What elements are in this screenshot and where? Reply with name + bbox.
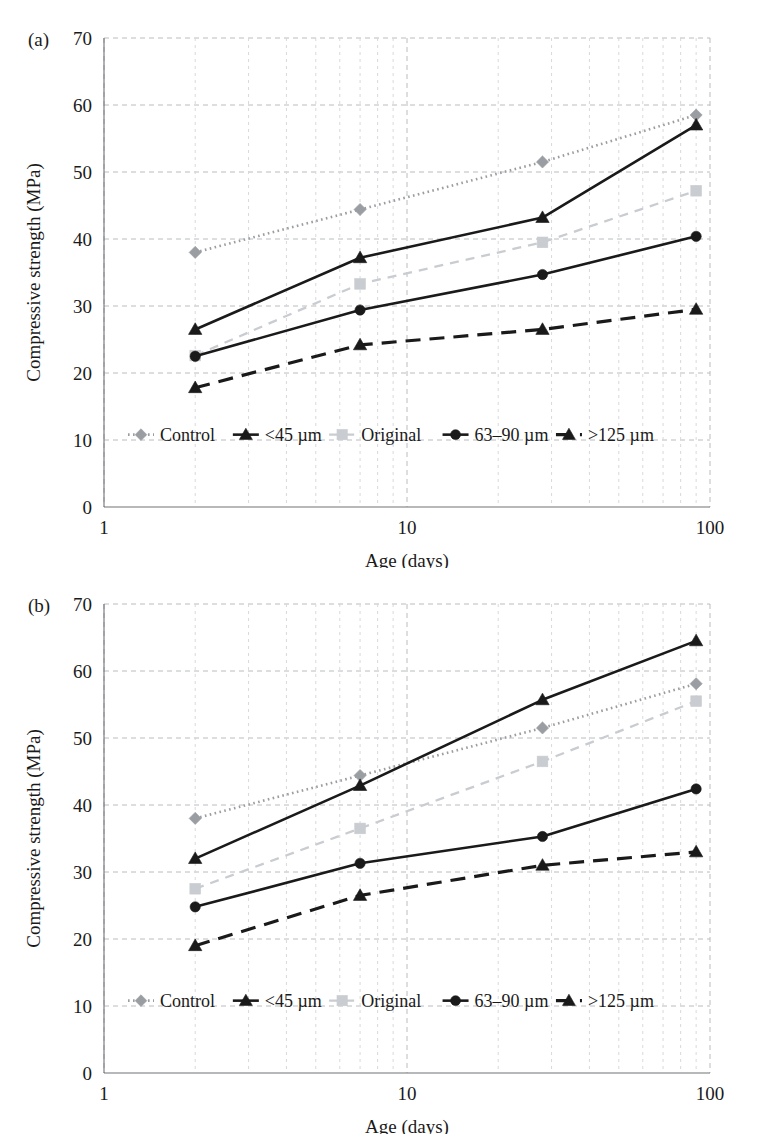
data-point-triangle-2-4 <box>689 634 702 646</box>
panel-label: (a) <box>28 29 49 51</box>
y-tick-labels: 010203040506070 <box>73 28 92 518</box>
legend-label-2: <45 µm <box>265 425 322 445</box>
legend-item-1[interactable]: Control <box>128 425 215 445</box>
series-4 <box>190 231 701 361</box>
legend-label-1: Control <box>160 991 215 1011</box>
data-point-circle-4-1 <box>190 351 200 361</box>
series-4 <box>190 784 701 912</box>
legend-item-4[interactable]: 63–90 µm <box>443 425 549 445</box>
y-tick-label-20: 20 <box>73 929 92 950</box>
data-point-square-3-2 <box>355 823 366 834</box>
legend: Control<45 µmOriginal63–90 µm>125 µm <box>128 991 654 1011</box>
legend-item-2[interactable]: <45 µm <box>233 991 322 1011</box>
data-point-square-3-4 <box>691 696 702 707</box>
x-tick-label-10: 10 <box>398 1083 417 1104</box>
data-point-triangle-2-3 <box>536 211 549 223</box>
y-tick-label-50: 50 <box>73 162 92 183</box>
series-1 <box>189 109 702 259</box>
legend-label-4: 63–90 µm <box>475 425 549 445</box>
data-point-circle-4-4 <box>691 231 701 241</box>
legend-label-1: Control <box>160 425 215 445</box>
x-tick-labels: 110100 <box>99 517 724 538</box>
data-point-diamond-1-2 <box>354 203 366 215</box>
y-tick-label-0: 0 <box>83 1063 93 1084</box>
legend-label-4: 63–90 µm <box>475 991 549 1011</box>
chart-panel-a: 010203040506070110100Age (days)Compressi… <box>0 0 764 568</box>
series-line-3 <box>195 701 696 889</box>
y-tick-label-30: 30 <box>73 296 92 317</box>
series-line-2 <box>195 641 696 859</box>
legend-label-5: >125 µm <box>588 425 654 445</box>
data-point-circle-4-2 <box>355 858 365 868</box>
legend-label-3: Original <box>361 991 421 1011</box>
chart-panel-b: 010203040506070110100Age (days)Compressi… <box>0 566 764 1134</box>
legend-label-3: Original <box>361 425 421 445</box>
series-line-1 <box>195 115 696 252</box>
y-tick-label-70: 70 <box>73 594 92 615</box>
series-2 <box>189 634 703 863</box>
data-point-square-legend-3 <box>337 995 347 1005</box>
y-tick-label-50: 50 <box>73 728 92 749</box>
data-point-circle-legend-4 <box>451 996 461 1006</box>
legend-item-3[interactable]: Original <box>329 991 421 1011</box>
series-3 <box>190 696 702 894</box>
series-5 <box>189 845 703 950</box>
series-2 <box>189 118 703 334</box>
legend-item-5[interactable]: >125 µm <box>556 991 654 1011</box>
series-line-1 <box>195 684 696 819</box>
data-point-diamond-1-1 <box>189 246 201 258</box>
x-tick-labels: 110100 <box>99 1083 724 1104</box>
series-line-2 <box>195 125 696 329</box>
y-tick-label-20: 20 <box>73 363 92 384</box>
data-point-circle-4-2 <box>355 305 365 315</box>
y-tick-label-0: 0 <box>83 497 93 518</box>
legend-label-5: >125 µm <box>588 991 654 1011</box>
legend: Control<45 µmOriginal63–90 µm>125 µm <box>128 425 654 445</box>
data-point-diamond-1-1 <box>189 812 201 824</box>
y-axis-title: Compressive strength (MPa) <box>23 729 45 947</box>
legend-item-5[interactable]: >125 µm <box>556 425 654 445</box>
legend-item-4[interactable]: 63–90 µm <box>443 991 549 1011</box>
x-tick-label-1: 1 <box>99 1083 109 1104</box>
series-line-4 <box>195 789 696 907</box>
series-1 <box>189 678 702 825</box>
x-tick-label-100: 100 <box>696 517 725 538</box>
chart-svg-a: 010203040506070110100Age (days)Compressi… <box>0 0 764 568</box>
data-point-square-3-2 <box>355 279 366 290</box>
data-point-circle-4-3 <box>537 269 547 279</box>
y-tick-label-30: 30 <box>73 862 92 883</box>
y-tick-label-10: 10 <box>73 430 92 451</box>
data-point-triangle-5-4 <box>689 303 702 315</box>
series-3 <box>190 185 702 360</box>
series-line-5 <box>195 852 696 946</box>
data-point-diamond-1-3 <box>536 156 548 168</box>
y-tick-labels: 010203040506070 <box>73 594 92 1084</box>
series-line-3 <box>195 191 696 356</box>
series-5 <box>189 303 703 393</box>
data-point-circle-4-3 <box>537 831 547 841</box>
series-group <box>189 109 703 393</box>
y-tick-label-10: 10 <box>73 996 92 1017</box>
data-point-circle-4-4 <box>691 784 701 794</box>
series-line-5 <box>195 309 696 387</box>
legend-label-2: <45 µm <box>265 991 322 1011</box>
x-tick-label-10: 10 <box>398 517 417 538</box>
y-axis-title: Compressive strength (MPa) <box>23 163 45 381</box>
x-tick-label-100: 100 <box>696 1083 725 1104</box>
x-axis-title: Age (days) <box>365 1116 449 1134</box>
data-point-square-3-4 <box>691 185 702 196</box>
legend-item-1[interactable]: Control <box>128 991 215 1011</box>
y-tick-label-40: 40 <box>73 229 92 250</box>
data-point-square-3-1 <box>190 883 201 894</box>
data-point-diamond-1-3 <box>536 722 548 734</box>
data-point-circle-legend-4 <box>451 430 461 440</box>
y-tick-label-60: 60 <box>73 95 92 116</box>
data-point-square-3-3 <box>537 237 548 248</box>
legend-item-2[interactable]: <45 µm <box>233 425 322 445</box>
chart-svg-b: 010203040506070110100Age (days)Compressi… <box>0 566 764 1134</box>
data-point-diamond-legend-1 <box>135 995 147 1007</box>
legend-item-3[interactable]: Original <box>329 425 421 445</box>
data-point-diamond-legend-1 <box>135 429 147 441</box>
data-point-triangle-2-4 <box>689 118 702 130</box>
data-point-diamond-1-4 <box>690 678 702 690</box>
